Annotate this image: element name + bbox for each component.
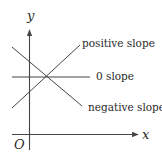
- negative-slope-label: negative slope: [88, 101, 162, 113]
- slope-diagram: y x O positive slope 0 slope negative sl…: [0, 0, 162, 158]
- positive-slope-label: positive slope: [82, 37, 155, 49]
- y-axis-label: y: [26, 8, 35, 23]
- origin-label: O: [14, 137, 25, 152]
- zero-slope-label: 0 slope: [96, 70, 134, 82]
- x-axis-label: x: [142, 127, 150, 142]
